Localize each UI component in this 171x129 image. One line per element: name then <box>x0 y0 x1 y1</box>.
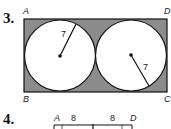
problem-4-vertex-a: A <box>54 113 60 123</box>
radius-label-left: 7 <box>61 29 66 39</box>
radius-label-right: 7 <box>143 62 148 72</box>
problem-4-label-8-left: 8 <box>71 113 76 123</box>
problem-4-number: 4. <box>3 111 14 128</box>
problem-4-vertex-d: D <box>130 113 137 123</box>
problem-4-label-8-right: 8 <box>110 113 115 123</box>
right-center <box>129 53 133 57</box>
left-center <box>58 54 62 58</box>
